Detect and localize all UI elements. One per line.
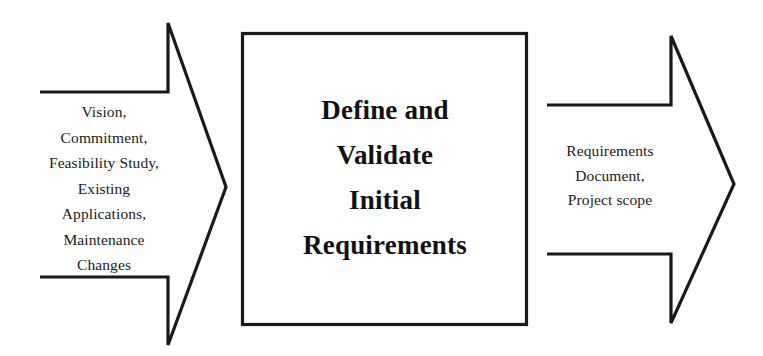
input-arrow-label-line-6: Maintenance — [38, 227, 170, 253]
output-arrow-label: Requirements Document, Project scope — [551, 139, 669, 213]
input-arrow-label-line-2: Commitment, — [38, 125, 170, 151]
output-arrow-label-line-3: Project scope — [551, 188, 669, 213]
input-arrow-label: Vision, Commitment, Feasibility Study, E… — [38, 99, 170, 278]
process-box-label: Define and Validate Initial Requirements — [244, 88, 526, 268]
input-arrow-label-line-3: Feasibility Study, — [38, 150, 170, 176]
diagram-canvas: Vision, Commitment, Feasibility Study, E… — [0, 0, 763, 356]
process-box-label-line-3: Initial — [244, 178, 526, 223]
input-arrow-label-line-5: Applications, — [38, 201, 170, 227]
input-arrow-label-line-7: Changes — [38, 252, 170, 278]
output-arrow-label-line-2: Document, — [551, 164, 669, 189]
input-arrow-label-line-1: Vision, — [38, 99, 170, 125]
process-box-label-line-4: Requirements — [244, 223, 526, 268]
input-arrow-label-line-4: Existing — [38, 176, 170, 202]
output-arrow-label-line-1: Requirements — [551, 139, 669, 164]
process-box-label-line-1: Define and — [244, 88, 526, 133]
process-box-label-line-2: Validate — [244, 133, 526, 178]
